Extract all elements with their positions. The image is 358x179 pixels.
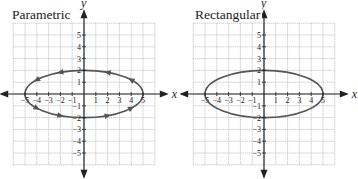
svg-text:−4: −4: [33, 96, 42, 105]
svg-text:1: 1: [274, 96, 278, 105]
svg-text:3: 3: [77, 55, 81, 64]
svg-text:−3: −3: [252, 125, 261, 134]
y-axis-up-arrow-icon: [81, 9, 88, 18]
x-axis-left-arrow-icon: [0, 91, 8, 98]
svg-text:3: 3: [297, 96, 301, 105]
svg-text:5: 5: [257, 31, 261, 40]
svg-text:5: 5: [141, 96, 145, 105]
svg-text:4: 4: [129, 96, 133, 105]
svg-text:−4: −4: [72, 137, 81, 146]
svg-text:−4: −4: [213, 96, 222, 105]
direction-arrow-icon: [32, 76, 40, 84]
parametric-graph: xy−5−4−3−2−112345−5−4−3−2−112345 Paramet…: [0, 0, 179, 179]
svg-text:−3: −3: [44, 96, 53, 105]
svg-text:−5: −5: [72, 149, 81, 158]
rectangular-graph: xy−5−4−3−2−112345−5−4−3−2−112345 Rectang…: [180, 0, 358, 179]
rectangular-title: Rectangular: [193, 7, 262, 22]
svg-text:−2: −2: [236, 96, 245, 105]
svg-text:−2: −2: [72, 114, 81, 123]
x-axis-left-arrow-icon: [180, 91, 188, 98]
rectangular-plot: xy−5−4−3−2−112345−5−4−3−2−112345: [180, 0, 358, 179]
x-axis-right-arrow-icon: [160, 91, 169, 98]
svg-text:−3: −3: [224, 96, 233, 105]
svg-text:4: 4: [257, 43, 261, 52]
svg-text:−1: −1: [252, 102, 261, 111]
y-axis-down-arrow-icon: [81, 170, 88, 179]
svg-text:2: 2: [286, 96, 290, 105]
svg-text:2: 2: [257, 66, 261, 75]
svg-text:4: 4: [309, 96, 313, 105]
parametric-plot: xy−5−4−3−2−112345−5−4−3−2−112345: [0, 0, 179, 179]
y-axis-down-arrow-icon: [261, 170, 268, 179]
parametric-title: Parametric: [10, 7, 72, 22]
x-axis-right-arrow-icon: [340, 91, 349, 98]
svg-text:1: 1: [257, 78, 261, 87]
svg-text:1: 1: [94, 96, 98, 105]
svg-text:−1: −1: [72, 102, 81, 111]
svg-text:−3: −3: [72, 125, 81, 134]
svg-text:2: 2: [106, 96, 110, 105]
svg-text:2: 2: [77, 66, 81, 75]
svg-text:−4: −4: [252, 137, 261, 146]
svg-text:3: 3: [257, 55, 261, 64]
x-axis-label: x: [351, 87, 358, 101]
svg-text:−2: −2: [56, 96, 65, 105]
svg-text:−5: −5: [201, 96, 210, 105]
svg-text:5: 5: [321, 96, 325, 105]
svg-text:3: 3: [117, 96, 121, 105]
svg-text:−2: −2: [252, 114, 261, 123]
svg-text:−5: −5: [21, 96, 30, 105]
x-axis-label: x: [171, 87, 178, 101]
svg-text:4: 4: [77, 43, 81, 52]
svg-text:1: 1: [77, 78, 81, 87]
y-axis-label: y: [80, 0, 87, 10]
svg-text:−5: −5: [252, 149, 261, 158]
svg-text:5: 5: [77, 31, 81, 40]
